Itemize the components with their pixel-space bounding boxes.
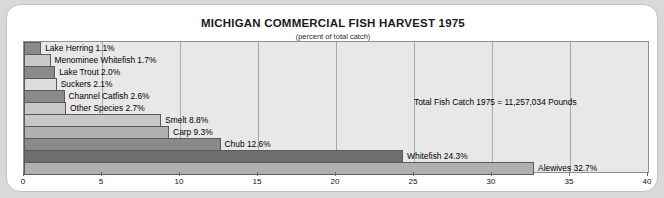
- axis-tick: [491, 172, 492, 176]
- axis-tick: [647, 172, 648, 176]
- x-axis: 0510152025303540: [23, 172, 649, 192]
- axis-tick-label: 20: [331, 177, 340, 186]
- axis-tick: [101, 172, 102, 176]
- axis-tick-label: 40: [643, 177, 652, 186]
- axis-tick-label: 35: [565, 177, 574, 186]
- plot-area: Lake Herring 1.1%Menominee Whitefish 1.7…: [23, 41, 649, 173]
- axis-tick: [413, 172, 414, 176]
- chart-card: MICHIGAN COMMERCIAL FISH HARVEST 1975 (p…: [6, 4, 658, 192]
- axis-tick-label: 10: [175, 177, 184, 186]
- axis-tick-label: 25: [409, 177, 418, 186]
- chart-subtitle: (percent of total catch): [7, 32, 658, 41]
- axis-tick: [23, 172, 24, 176]
- axis-tick: [179, 172, 180, 176]
- axis-tick-label: 5: [99, 177, 103, 186]
- axis-tick: [335, 172, 336, 176]
- axis-tick-label: 30: [487, 177, 496, 186]
- axis-tick-label: 0: [21, 177, 25, 186]
- chart-title: MICHIGAN COMMERCIAL FISH HARVEST 1975: [7, 17, 658, 29]
- total-catch-annotation: Total Fish Catch 1975 = 11,257,034 Pound…: [414, 97, 577, 107]
- axis-tick: [569, 172, 570, 176]
- chart-page: MICHIGAN COMMERCIAL FISH HARVEST 1975 (p…: [0, 0, 664, 198]
- axis-tick-label: 15: [253, 177, 262, 186]
- axis-tick: [257, 172, 258, 176]
